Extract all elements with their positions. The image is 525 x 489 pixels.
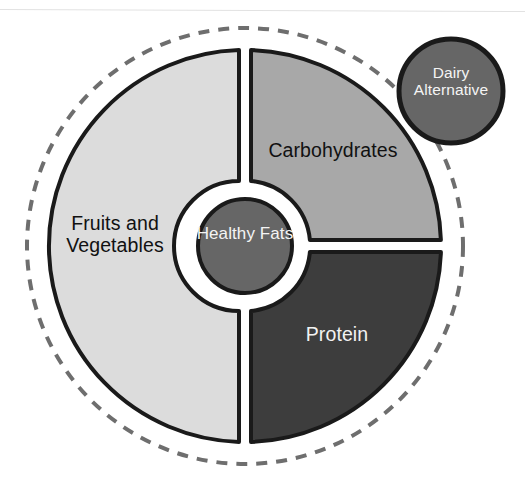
plate-graphic xyxy=(0,0,525,489)
center-hub-healthy-fats[interactable] xyxy=(198,199,292,293)
satellite-dairy-alternative[interactable] xyxy=(399,39,503,143)
nutrition-plate-diagram: Fruits and Vegetables Carbohydrates Prot… xyxy=(0,0,525,489)
